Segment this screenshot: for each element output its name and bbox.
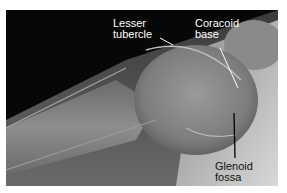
label-coracoid-base: Coracoid base xyxy=(195,18,239,40)
label-glenoid-fossa: Glenoid fossa xyxy=(215,161,253,183)
label-line: base xyxy=(195,29,239,40)
label-lesser-tubercle: Lesser tubercle xyxy=(113,18,152,40)
label-line: fossa xyxy=(215,172,253,183)
label-line: tubercle xyxy=(113,29,152,40)
shoulder-xray-image: Lesser tubercle Coracoid base Glenoid fo… xyxy=(6,10,278,186)
